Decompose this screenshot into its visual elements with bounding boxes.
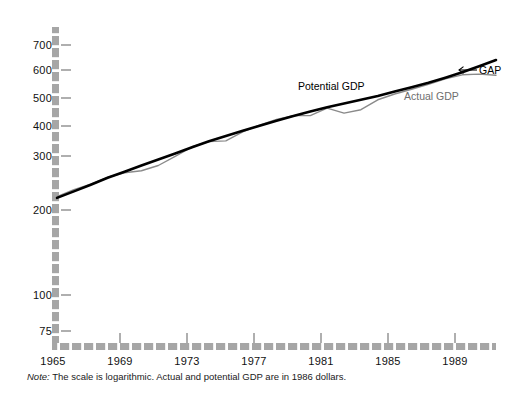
x-tick-marks (120, 333, 455, 343)
y-tick-label-200: 200 (18, 204, 52, 216)
potential-gdp-line (57, 60, 496, 198)
x-tick-label-1985: 1985 (365, 355, 411, 367)
chart-note: Note: The scale is logarithmic. Actual a… (27, 371, 346, 382)
y-axis-bar (52, 27, 59, 343)
y-tick-label-300: 300 (18, 150, 52, 162)
y-tick-label-75: 75 (18, 325, 52, 337)
potential-gdp-label: Potential GDP (298, 80, 365, 92)
y-tick-label-600: 600 (18, 64, 52, 76)
x-tick-label-1969: 1969 (97, 355, 143, 367)
gap-label: GAP (479, 64, 501, 76)
y-tick-label-100: 100 (18, 289, 52, 301)
x-tick-label-1977: 1977 (231, 355, 277, 367)
x-axis-bar (52, 343, 496, 350)
note-prefix: Note: (27, 371, 50, 382)
series-group (57, 60, 496, 198)
y-tick-marks (61, 45, 71, 331)
x-tick-label-1981: 1981 (298, 355, 344, 367)
y-tick-label-700: 700 (18, 39, 52, 51)
x-tick-label-1965: 1965 (30, 355, 76, 367)
note-text: The scale is logarithmic. Actual and pot… (50, 371, 346, 382)
x-tick-label-1973: 1973 (164, 355, 210, 367)
y-tick-label-400: 400 (18, 120, 52, 132)
chart-canvas (0, 0, 508, 396)
actual-gdp-label: Actual GDP (404, 90, 459, 102)
x-tick-label-1989: 1989 (432, 355, 478, 367)
y-tick-label-500: 500 (18, 92, 52, 104)
gdp-gap-chart: 700 600 500 400 300 200 100 75 1965 1969… (0, 0, 508, 396)
